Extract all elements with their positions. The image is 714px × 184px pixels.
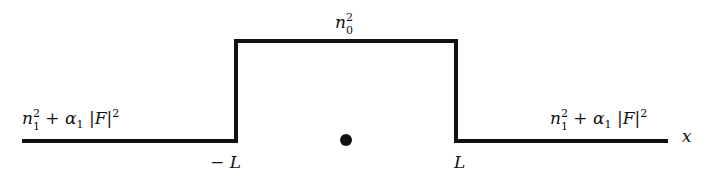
n1-sub-sup: 21 <box>561 123 568 124</box>
n1-sub-sup: 21 <box>33 123 40 124</box>
n1-sub: 1 <box>561 121 568 132</box>
alpha-symbol: α <box>593 108 604 128</box>
n-symbol: n <box>550 108 561 128</box>
alpha-sub: 1 <box>77 118 84 131</box>
left-boundary-label: − L <box>210 154 241 171</box>
alpha-sub: 1 <box>605 118 612 131</box>
cladding-right-label: n21 + α1 |F|2 <box>550 110 647 127</box>
F-symbol: F <box>95 108 107 128</box>
F-symbol: F <box>623 108 635 128</box>
profile-svg <box>0 0 714 184</box>
abs-sup: 2 <box>640 107 647 120</box>
n1-sub: 1 <box>33 121 40 132</box>
plus-sign: + <box>45 108 59 128</box>
plus-sign: + <box>573 108 587 128</box>
core-sub-sup: 20 <box>346 27 353 28</box>
n1-sup: 2 <box>561 108 568 119</box>
core-sub: 0 <box>346 25 353 36</box>
x-axis-label: x <box>682 128 692 145</box>
center-dot <box>340 134 352 146</box>
n1-sup: 2 <box>33 108 40 119</box>
n-symbol: n <box>22 108 33 128</box>
abs-sup: 2 <box>112 107 119 120</box>
cladding-left-label: n21 + α1 |F|2 <box>22 110 119 127</box>
alpha-symbol: α <box>65 108 76 128</box>
core-sup: 2 <box>346 12 353 23</box>
core-index-label: n20 <box>335 14 353 31</box>
right-boundary-label: L <box>454 154 465 171</box>
core-n: n <box>335 12 346 32</box>
index-profile-diagram: n20 n21 + α1 |F|2 n21 + α1 |F|2 x − L L <box>0 0 714 184</box>
